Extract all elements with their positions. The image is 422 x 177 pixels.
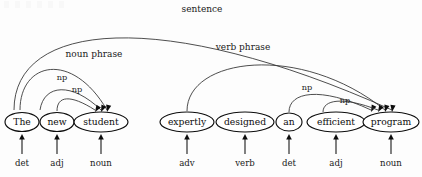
pos-arrow-icon (54, 134, 60, 140)
word-label: new (47, 116, 66, 127)
pos-tag-adj-efficient[interactable]: adj (329, 134, 342, 168)
word-node-expertly[interactable]: expertly (160, 112, 214, 132)
pos-tag-adv-expertly[interactable]: adv (179, 134, 195, 168)
pos-arrow-icon (242, 134, 248, 140)
pos-arrow-icon (184, 134, 190, 140)
word-node-layer: The new student expertly designed an (5, 112, 419, 132)
word-label: The (13, 116, 30, 127)
parse-diagram: sentence verb phrase noun phrase np (0, 0, 422, 177)
word-label: an (283, 116, 294, 127)
arc-sentence-arrowhead (389, 105, 395, 113)
pos-arrow-icon (388, 134, 394, 140)
word-label: expertly (168, 116, 207, 127)
arc-np-new-student[interactable]: np (57, 84, 101, 113)
word-label: designed (224, 116, 266, 127)
pos-label: det (282, 158, 297, 168)
pos-tag-noun-program[interactable]: noun (380, 134, 402, 168)
arc-np-efficient-program[interactable]: np (323, 95, 384, 113)
arc-verb-phrase-path (187, 65, 385, 111)
pos-arrow-icon (19, 134, 25, 140)
arc-np-the-student-path (40, 90, 101, 110)
word-node-new[interactable]: new (40, 113, 74, 132)
arc-sentence-label: sentence (182, 4, 223, 14)
arc-noun-phrase[interactable]: noun phrase (20, 49, 122, 113)
word-node-an[interactable]: an (276, 113, 302, 131)
pos-arrow-icon (98, 134, 104, 140)
pos-arrow-icon (286, 134, 292, 140)
word-node-designed[interactable]: designed (216, 112, 274, 132)
pos-tag-adj-new[interactable]: adj (50, 134, 63, 168)
arc-np-an-program-label: np (302, 82, 313, 92)
pos-label: noun (90, 158, 112, 168)
word-node-student[interactable]: student (74, 112, 128, 132)
word-node-efficient[interactable]: efficient (307, 112, 365, 132)
arc-np-an-program-path (289, 94, 371, 112)
arc-np-the-student-label: np (57, 72, 68, 82)
arc-noun-phrase-arrowhead (104, 105, 111, 113)
pos-label: det (15, 158, 30, 168)
pos-arrow-icon (333, 134, 339, 140)
arc-noun-phrase-label: noun phrase (66, 49, 123, 59)
word-label: program (371, 116, 412, 127)
pos-tag-layer: det adj noun adv verb (15, 134, 402, 168)
word-node-program[interactable]: program (363, 112, 419, 132)
pos-tag-noun-student[interactable]: noun (90, 134, 112, 168)
pos-label: adj (50, 158, 63, 168)
pos-label: adj (329, 158, 342, 168)
pos-label: noun (380, 158, 402, 168)
arc-np-efficient-program-path (323, 101, 378, 112)
arc-layer: sentence verb phrase noun phrase np (14, 4, 396, 113)
pos-tag-det-an[interactable]: det (282, 134, 297, 168)
arc-verb-phrase-label: verb phrase (215, 42, 271, 52)
parse-diagram-canvas: sentence verb phrase noun phrase np (0, 0, 422, 177)
pos-label: verb (234, 158, 255, 168)
pos-label: adv (179, 158, 195, 168)
pos-tag-det-the[interactable]: det (15, 134, 30, 168)
pos-tag-verb-designed[interactable]: verb (234, 134, 255, 168)
word-label: student (83, 116, 119, 127)
word-label: efficient (317, 116, 355, 127)
word-node-the[interactable]: The (5, 113, 39, 132)
arc-np-efficient-program-label: np (340, 95, 351, 105)
arc-np-new-student-label: np (72, 84, 83, 94)
arc-verb-phrase[interactable]: verb phrase (187, 42, 389, 113)
